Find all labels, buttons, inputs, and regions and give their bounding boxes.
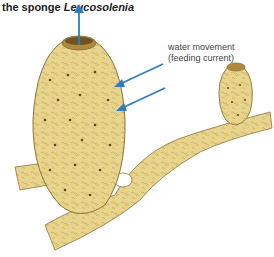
sponge-illustration <box>0 0 274 257</box>
large-sponge-body <box>33 36 125 214</box>
small-sponge-bud <box>219 63 252 125</box>
inhalant-flow-arrow-1 <box>114 64 163 87</box>
